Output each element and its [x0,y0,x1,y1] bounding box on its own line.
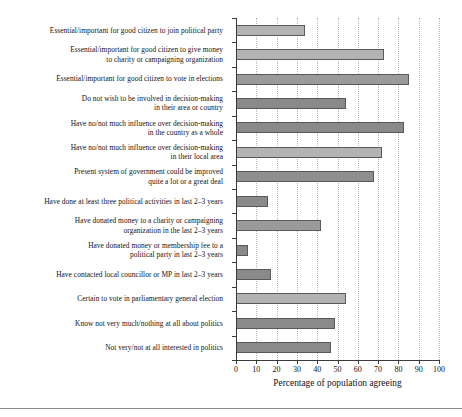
x-axis-tick [277,360,278,364]
category-label-row: Have donated money to a charity or campa… [0,213,229,237]
category-label-row: Do not wish to be involved in decision-m… [0,91,229,115]
bar-chart-figure: Essential/important for good citizen to … [0,0,462,417]
y-axis-tick [232,116,236,117]
x-axis-tick-label: 50 [334,365,342,374]
x-axis-tick [297,360,298,364]
y-axis-tick [232,311,236,312]
gridline [378,18,379,360]
plot-area [236,18,439,360]
category-label-row: Present system of government could be im… [0,165,229,189]
x-axis-tick-label: 30 [293,365,301,374]
bottom-rule [0,408,462,409]
y-axis-tick [232,91,236,92]
category-label: Do not wish to be involved in decision-m… [82,94,223,113]
category-label: Have no/not much influence over decision… [71,143,223,162]
bar [236,220,321,231]
bar [236,25,305,36]
x-axis-tick-label: 60 [354,365,362,374]
x-axis-tick [317,360,318,364]
bar [236,122,404,133]
category-label-row: Certain to vote in parliamentary general… [0,287,229,311]
y-axis-tick [232,165,236,166]
category-label-row: Know not very much/nothing at all about … [0,311,229,335]
x-axis-tick [378,360,379,364]
y-axis-tick [232,238,236,239]
bar [236,49,384,60]
category-label-row: Essential/important for good citizen to … [0,42,229,66]
x-axis-tick [358,360,359,364]
category-label: Essential/important for good citizen to … [70,45,223,64]
bar [236,245,248,256]
x-axis-tick [256,360,257,364]
category-label-row: Essential/important for good citizen to … [0,18,229,42]
x-axis-tick-label: 90 [415,365,423,374]
category-label-row: Have contacted local councillor or MP in… [0,262,229,286]
x-axis-tick-label: 0 [234,365,238,374]
category-label: Essential/important for good citizen to … [56,74,223,83]
bar [236,196,268,207]
category-label: Have no/not much influence over decision… [71,119,223,138]
bar [236,74,409,85]
x-axis-tick [236,360,237,364]
gridline [439,18,440,360]
category-axis-line [236,18,237,360]
x-axis-tick-label: 80 [394,365,402,374]
category-axis: Essential/important for good citizen to … [0,18,231,360]
y-axis-tick [232,42,236,43]
category-label: Have done at least three political activ… [44,197,223,206]
category-label-row: Have done at least three political activ… [0,189,229,213]
y-axis-tick [232,140,236,141]
y-axis-tick [232,360,236,361]
category-label-row: Have no/not much influence over decision… [0,140,229,164]
bar [236,171,374,182]
gridline [419,18,420,360]
x-axis-tick-label: 100 [433,365,445,374]
x-axis-tick [419,360,420,364]
category-label-row: Have donated money or membership fee to … [0,238,229,262]
bar [236,98,346,109]
gridline [297,18,298,360]
bar [236,293,346,304]
y-axis-tick [232,336,236,337]
y-axis-tick [232,262,236,263]
x-axis-title: Percentage of population agreeing [236,378,439,388]
category-label: Not very/not at all interested in politi… [105,343,223,352]
category-label: Have contacted local councillor or MP in… [56,270,223,279]
x-axis-tick [338,360,339,364]
y-axis-tick [232,287,236,288]
category-label: Present system of government could be im… [74,167,223,186]
category-label-row: Essential/important for good citizen to … [0,67,229,91]
bar [236,318,335,329]
gridline [277,18,278,360]
gridline [398,18,399,360]
category-label: Certain to vote in parliamentary general… [77,294,223,303]
bar [236,147,382,158]
x-axis-tick-label: 40 [313,365,321,374]
x-axis-tick-label: 70 [374,365,382,374]
category-label-row: Have no/not much influence over decision… [0,116,229,140]
y-axis-tick [232,189,236,190]
bar [236,342,331,353]
bar [236,269,271,280]
category-label: Have donated money or membership fee to … [88,241,223,260]
category-label-row: Not very/not at all interested in politi… [0,336,229,360]
category-label: Essential/important for good citizen to … [50,26,223,35]
gridline [317,18,318,360]
x-axis-tick-label: 20 [273,365,281,374]
y-axis-tick [232,213,236,214]
x-axis-tick-label: 10 [252,365,260,374]
category-label: Have donated money to a charity or campa… [75,216,223,235]
x-axis-tick [439,360,440,364]
gridline [358,18,359,360]
y-axis-tick [232,18,236,19]
y-axis-tick [232,67,236,68]
gridline [338,18,339,360]
x-axis-tick [398,360,399,364]
gridline [256,18,257,360]
category-label: Know not very much/nothing at all about … [75,319,223,328]
